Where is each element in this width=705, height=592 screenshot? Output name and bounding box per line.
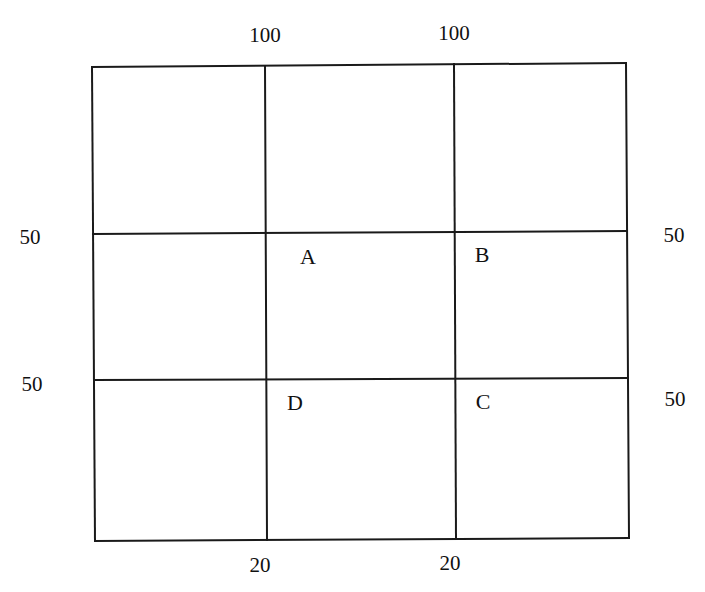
grid-diagram: 100 100 20 20 50 50 50 50 A B C D — [0, 0, 705, 592]
horizontal-road-upper — [93, 231, 627, 234]
node-label-c: C — [476, 389, 491, 414]
left-label-upper: 50 — [20, 225, 41, 249]
vertical-road-right — [454, 64, 456, 539]
node-label-a: A — [300, 244, 316, 269]
top-label-left: 100 — [249, 23, 281, 47]
horizontal-roads — [93, 231, 628, 380]
left-label-lower: 50 — [22, 372, 43, 396]
vertical-roads — [265, 64, 456, 540]
node-label-d: D — [287, 390, 303, 415]
vertical-road-left — [265, 66, 267, 540]
frame-right — [626, 63, 629, 538]
right-label-upper: 50 — [664, 223, 685, 247]
outer-frame — [92, 63, 629, 541]
right-label-lower: 50 — [665, 387, 686, 411]
frame-top — [92, 63, 626, 67]
top-label-right: 100 — [438, 21, 470, 45]
frame-bottom — [95, 538, 629, 541]
frame-left — [92, 67, 95, 541]
node-label-b: B — [475, 242, 490, 267]
horizontal-road-lower — [94, 378, 628, 380]
bottom-label-right: 20 — [440, 551, 461, 575]
bottom-label-left: 20 — [250, 553, 271, 577]
